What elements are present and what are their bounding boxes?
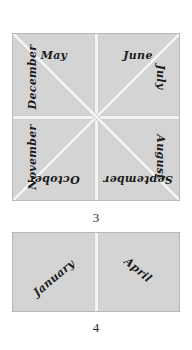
sector-label-september: September [103, 173, 173, 186]
divider-vertical [95, 34, 98, 200]
figure-3-caption: 3 [0, 210, 192, 226]
sector-label-june: June [123, 49, 152, 62]
figure-4-caption: 4 [0, 320, 192, 336]
sector-label-may: May [41, 49, 68, 62]
sector-label-july: July [154, 65, 167, 90]
figure-4: January April 4 [0, 232, 192, 336]
sector-label-april: April [122, 255, 155, 285]
two-sector-square: January April [12, 232, 180, 312]
sector-label-november: November [26, 124, 39, 189]
eight-sector-square: May June July August September October N… [12, 33, 180, 201]
sector-label-january: January [31, 257, 77, 299]
sector-label-december: December [26, 45, 39, 110]
divider-vertical [95, 233, 98, 311]
divider-horizontal [13, 116, 179, 119]
figure-3: May June July August September October N… [0, 0, 192, 226]
